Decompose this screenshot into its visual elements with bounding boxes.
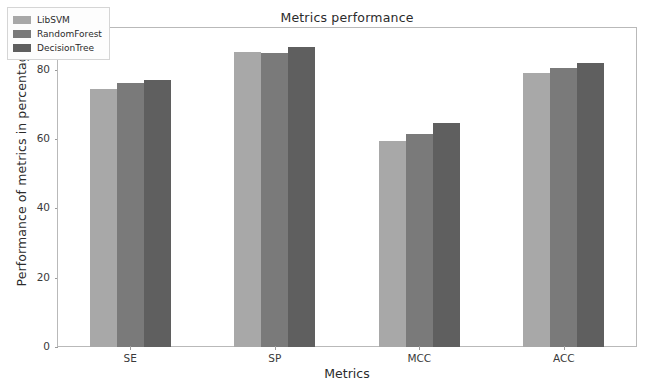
x-tick-mark [130,346,131,350]
bar-se-decisiontree [144,80,171,347]
x-tick-mark [564,346,565,350]
chart-legend: LibSVMRandomForestDecisionTree [7,7,110,60]
bar-acc-decisiontree [577,63,604,347]
legend-item-randomforest: RandomForest [13,27,102,40]
bar-sp-randomforest [261,53,288,347]
bar-acc-libsvm [523,73,550,347]
bar-se-libsvm [90,89,117,347]
y-axis-label: Performance of metrics in percentage [14,17,29,317]
legend-label: DecisionTree [37,43,94,53]
x-tick-label: ACC [553,352,575,364]
x-tick-label: SP [268,352,281,364]
y-tick-label: 40 [37,201,50,214]
x-tick-label: SE [124,352,137,364]
y-tick-label: 60 [37,132,50,145]
x-tick-mark [275,346,276,350]
legend-swatch [13,44,31,52]
plot-area [58,28,636,347]
y-axis-ticks: 020406080 [0,28,58,347]
legend-label: LibSVM [37,15,70,25]
bar-mcc-randomforest [406,134,433,347]
legend-swatch [13,30,31,38]
bar-sp-decisiontree [288,47,315,347]
y-tick-label: 20 [37,271,50,284]
x-axis-label: Metrics [57,366,637,381]
y-tick-label: 80 [37,63,50,76]
chart-title: Metrics performance [57,10,637,25]
bar-acc-randomforest [550,68,577,347]
bar-sp-libsvm [234,52,261,347]
bar-mcc-decisiontree [433,123,460,347]
x-tick-mark [419,346,420,350]
x-tick-label: MCC [407,352,431,364]
legend-item-decisiontree: DecisionTree [13,41,102,54]
legend-label: RandomForest [37,29,102,39]
chart-figure: Metrics performance 020406080 Performanc… [0,0,671,388]
bar-mcc-libsvm [379,141,406,347]
legend-item-libsvm: LibSVM [13,13,102,26]
y-tick-label: 0 [43,340,50,353]
bar-se-randomforest [117,83,144,347]
legend-swatch [13,16,31,24]
